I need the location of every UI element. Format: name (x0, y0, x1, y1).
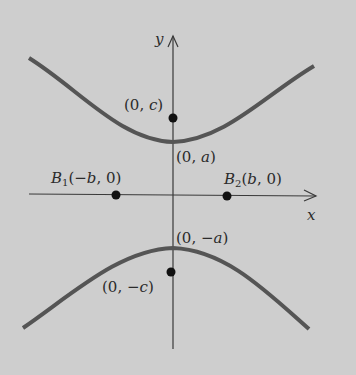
label-text: ) (222, 229, 228, 247)
label-text: , 0) (257, 170, 282, 188)
label-var: B (51, 169, 62, 187)
hyperbola-diagram: y x (0, c) (0, a) B1(−b, 0) B2(b, 0) (0,… (0, 0, 356, 375)
label-text: ) (157, 96, 163, 114)
vertex-top-label: (0, a) (176, 150, 216, 165)
focus-top-label: (0, c) (124, 98, 163, 113)
label-text: (0, (124, 96, 149, 114)
b2-point (223, 192, 232, 201)
x-axis-label: x (307, 208, 315, 223)
focus-top-point (169, 114, 178, 123)
label-text: (0, (176, 148, 201, 166)
upper-branch-curve (29, 58, 314, 142)
focus-bottom-point (167, 268, 176, 277)
label-var: b (247, 170, 257, 188)
y-axis-label: y (155, 32, 163, 47)
label-text: ) (148, 278, 154, 296)
label-text: (0, − (102, 278, 140, 296)
label-text: (− (68, 169, 86, 187)
focus-bottom-label: (0, −c) (102, 280, 154, 295)
b2-label: B2(b, 0) (224, 172, 282, 189)
b1-label: B1(−b, 0) (51, 171, 121, 188)
lower-branch-curve (23, 248, 309, 329)
label-text: , 0) (96, 169, 121, 187)
b1-point (112, 191, 121, 200)
label-var: b (87, 169, 97, 187)
vertex-bottom-label: (0, −a) (176, 231, 228, 246)
label-text: (0, − (176, 229, 214, 247)
label-var: a (201, 148, 210, 166)
label-var: c (140, 278, 148, 296)
label-var: B (224, 170, 235, 188)
label-text: ) (210, 148, 216, 166)
